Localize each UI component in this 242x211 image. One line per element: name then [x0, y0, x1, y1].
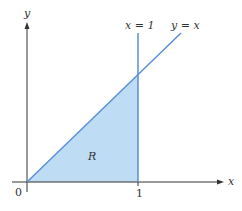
curve-label-x-equals-1: x = 1 [125, 19, 154, 32]
curve-label-y-equals-x: y = x [170, 19, 200, 32]
y-axis-arrow-icon [25, 22, 30, 29]
x-tick-label: 1 [136, 187, 143, 200]
region-label: R [87, 150, 96, 163]
x-axis-label: x [228, 175, 235, 188]
x-axis-arrow-icon [217, 180, 224, 185]
y-axis-label: y [23, 7, 31, 20]
origin-label: 0 [15, 186, 22, 199]
diagram-canvas: y x 0 1 x = 1 y = x R [0, 0, 242, 211]
